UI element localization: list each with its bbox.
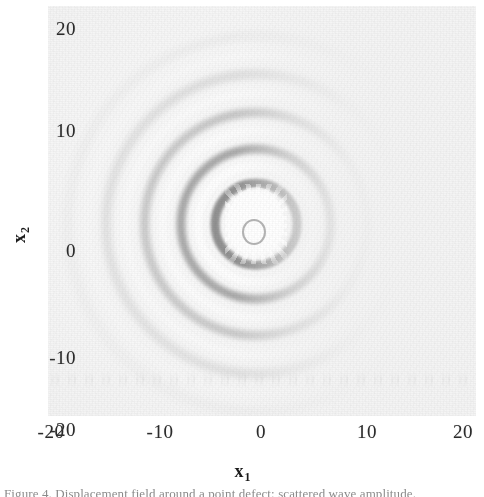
y-axis-title-subscript: 2 bbox=[18, 227, 32, 233]
figure-caption: Figure 4. Displacement field around a po… bbox=[4, 486, 480, 497]
figure-root: 20 10 0 -10 -20 -20 -10 0 10 20 x2 x1 Fi… bbox=[0, 0, 484, 497]
y-axis-title: x2 bbox=[9, 216, 30, 256]
x-axis-title-subscript: 1 bbox=[245, 470, 251, 484]
xtick-label-neg10: -10 bbox=[130, 421, 190, 443]
ytick-label-20: 20 bbox=[14, 18, 76, 40]
ytick-label-neg10: -10 bbox=[14, 347, 76, 369]
plot-area bbox=[48, 6, 476, 416]
xtick-label-20: 20 bbox=[433, 421, 484, 443]
xtick-label-10: 10 bbox=[337, 421, 397, 443]
x-axis-title: x1 bbox=[0, 461, 484, 482]
y-axis-title-text: x bbox=[9, 234, 29, 243]
scan-streak-artifact bbox=[48, 372, 476, 388]
ytick-label-10: 10 bbox=[14, 120, 76, 142]
xtick-label-0: 0 bbox=[231, 421, 291, 443]
scan-grain-overlay bbox=[48, 6, 476, 416]
xtick-label-neg20: -20 bbox=[21, 421, 81, 443]
x-axis-title-text: x bbox=[235, 461, 244, 481]
